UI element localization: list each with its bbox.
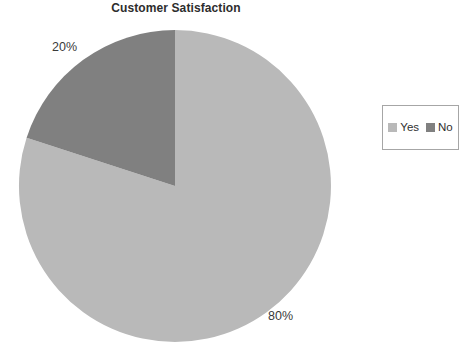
pie-graphic — [0, 0, 465, 361]
chart-legend: Yes No — [382, 105, 459, 150]
legend-items: Yes No — [383, 106, 458, 149]
pie-label-yes: 80% — [268, 309, 293, 323]
legend-swatch-yes-icon — [388, 123, 397, 132]
legend-swatch-no-icon — [426, 123, 435, 132]
legend-entry-no[interactable]: No — [426, 122, 453, 134]
pie-label-no: 20% — [52, 40, 77, 54]
legend-entry-yes[interactable]: Yes — [388, 122, 419, 134]
pie-chart: Customer Satisfaction 20% 80% Yes No — [0, 0, 465, 361]
legend-label-yes: Yes — [400, 122, 419, 134]
legend-label-no: No — [438, 122, 453, 134]
